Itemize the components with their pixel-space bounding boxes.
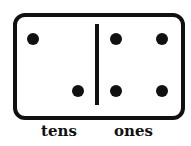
- tens-dot-top-left: [27, 33, 39, 45]
- ones-dot-bottom-left: [110, 85, 122, 97]
- ones-dot-top-left: [110, 33, 122, 45]
- domino: [13, 13, 185, 120]
- ones-dot-bottom-right: [156, 85, 168, 97]
- ones-label: ones: [114, 122, 153, 140]
- tens-dot-bottom-right: [72, 85, 84, 97]
- tens-label: tens: [41, 122, 77, 140]
- domino-divider: [95, 24, 99, 105]
- ones-dot-top-right: [156, 33, 168, 45]
